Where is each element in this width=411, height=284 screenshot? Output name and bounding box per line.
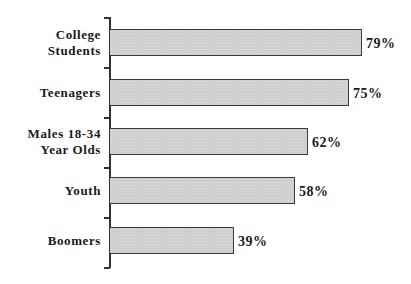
category-label: Males 18-34 Year Olds [0,126,101,158]
category-label: Youth [0,183,101,199]
value-label: 39% [238,234,268,250]
axis-tick [104,267,110,269]
value-label: 62% [312,135,342,151]
horizontal-bar-chart: College Students79%Teenagers75%Males 18-… [0,0,411,284]
axis-tick [104,17,110,19]
bar [110,128,308,155]
category-label: Boomers [0,233,101,249]
value-label: 58% [299,184,329,200]
axis-tick [104,67,110,69]
bar [110,177,295,204]
axis-tick [104,167,110,169]
value-label: 75% [353,86,383,102]
category-label: College Students [0,27,101,59]
axis-tick [104,117,110,119]
axis-tick [104,217,110,219]
value-label: 79% [366,36,396,52]
bar [110,227,234,254]
category-label: Teenagers [0,85,101,101]
bar [110,79,349,106]
bar [110,29,362,56]
